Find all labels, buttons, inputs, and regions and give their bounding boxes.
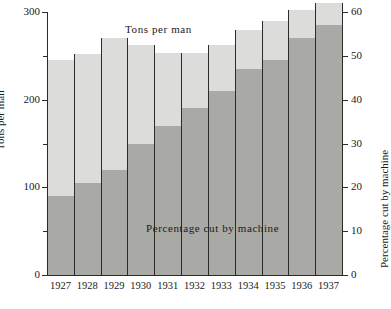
bar-segment-percentage-1931 <box>155 126 181 275</box>
y-axis-right-tick-label-10: 10 <box>351 225 362 236</box>
y-axis-left <box>47 12 48 275</box>
bar-segment-tons-1937 <box>316 3 342 25</box>
y-axis-left-minor-tick-250 <box>43 56 47 57</box>
y-axis-right-tick-label-0: 0 <box>351 269 357 280</box>
bar-1937 <box>315 3 343 275</box>
y-axis-left-minor-tick-50 <box>43 231 47 232</box>
plot-area <box>47 12 342 275</box>
chart-container: 0100200300 0102030405060 192719281929193… <box>0 0 391 309</box>
y-axis-right-tick-60 <box>343 12 348 13</box>
x-axis-tick-label-1932: 1932 <box>181 281 208 292</box>
y-axis-left-minor-tick-150 <box>43 144 47 145</box>
bar-segment-percentage-1928 <box>75 183 101 275</box>
series-label-percentage-cut-by-machine: Percentage cut by machine <box>146 222 279 234</box>
bar-segment-percentage-1927 <box>48 196 74 275</box>
bar-segment-tons-1932 <box>182 53 208 108</box>
x-axis-tick-label-1930: 1930 <box>127 281 154 292</box>
x-axis-tick-label-1927: 1927 <box>47 281 74 292</box>
y-axis-right-tick-label-50: 50 <box>351 50 362 61</box>
x-axis-tick-label-1931: 1931 <box>154 281 181 292</box>
y-axis-right-tick-0 <box>343 275 348 276</box>
bar-1931 <box>154 53 182 275</box>
y-axis-right-tick-label-60: 60 <box>351 6 362 17</box>
bar-group <box>47 12 342 275</box>
bar-segment-tons-1929 <box>102 38 128 170</box>
bar-segment-tons-1930 <box>128 45 154 143</box>
y-axis-right <box>342 12 343 275</box>
bar-1929 <box>101 38 129 275</box>
series-label-tons-per-man: Tons per man <box>125 23 192 35</box>
bar-1927 <box>47 60 75 275</box>
y-axis-right-tick-20 <box>343 187 348 188</box>
bar-segment-percentage-1936 <box>289 38 315 275</box>
bar-segment-tons-1935 <box>263 21 289 60</box>
y-axis-right-tick-label-30: 30 <box>351 138 362 149</box>
bar-segment-tons-1933 <box>209 45 235 91</box>
bar-1936 <box>288 10 316 275</box>
bar-1932 <box>181 53 209 275</box>
y-axis-left-tick-label-100: 100 <box>24 181 41 192</box>
bar-segment-percentage-1932 <box>182 108 208 275</box>
y-axis-left-tick-label-0: 0 <box>35 269 41 280</box>
x-axis-tick-label-1933: 1933 <box>208 281 235 292</box>
bar-segment-tons-1936 <box>289 10 315 38</box>
y-axis-right-tick-10 <box>343 231 348 232</box>
bar-segment-tons-1931 <box>155 53 181 126</box>
y-axis-right-title: Percentage cut by machine <box>378 150 390 268</box>
y-axis-left-title: Tons per man <box>0 90 6 150</box>
x-axis-tick-label-1937: 1937 <box>315 281 342 292</box>
x-axis-tick-label-1936: 1936 <box>288 281 315 292</box>
bar-1933 <box>208 45 236 275</box>
bar-segment-tons-1927 <box>48 60 74 196</box>
bar-1934 <box>235 30 263 275</box>
bar-1935 <box>262 21 290 275</box>
bar-segment-percentage-1934 <box>236 69 262 275</box>
x-axis-tick-label-1929: 1929 <box>101 281 128 292</box>
bar-segment-tons-1934 <box>236 30 262 69</box>
bar-segment-tons-1928 <box>75 54 101 183</box>
x-axis-tick-label-1935: 1935 <box>262 281 289 292</box>
y-axis-right-tick-label-20: 20 <box>351 181 362 192</box>
x-axis <box>47 275 343 276</box>
bar-segment-percentage-1933 <box>209 91 235 275</box>
y-axis-right-tick-label-40: 40 <box>351 94 362 105</box>
y-axis-left-tick-label-200: 200 <box>24 94 41 105</box>
bar-segment-percentage-1930 <box>128 144 154 276</box>
y-axis-right-tick-30 <box>343 144 348 145</box>
y-axis-right-tick-50 <box>343 56 348 57</box>
bar-1930 <box>127 45 155 275</box>
y-axis-left-tick-200 <box>42 100 47 101</box>
bar-segment-percentage-1937 <box>316 25 342 275</box>
y-axis-right-tick-40 <box>343 100 348 101</box>
y-axis-left-tick-100 <box>42 187 47 188</box>
x-axis-tick-label-1928: 1928 <box>74 281 101 292</box>
bar-1928 <box>74 54 102 275</box>
y-axis-left-tick-label-300: 300 <box>24 6 41 17</box>
y-axis-left-tick-300 <box>42 12 47 13</box>
bar-segment-percentage-1935 <box>263 60 289 275</box>
x-axis-tick-label-1934: 1934 <box>235 281 262 292</box>
bar-segment-percentage-1929 <box>102 170 128 275</box>
